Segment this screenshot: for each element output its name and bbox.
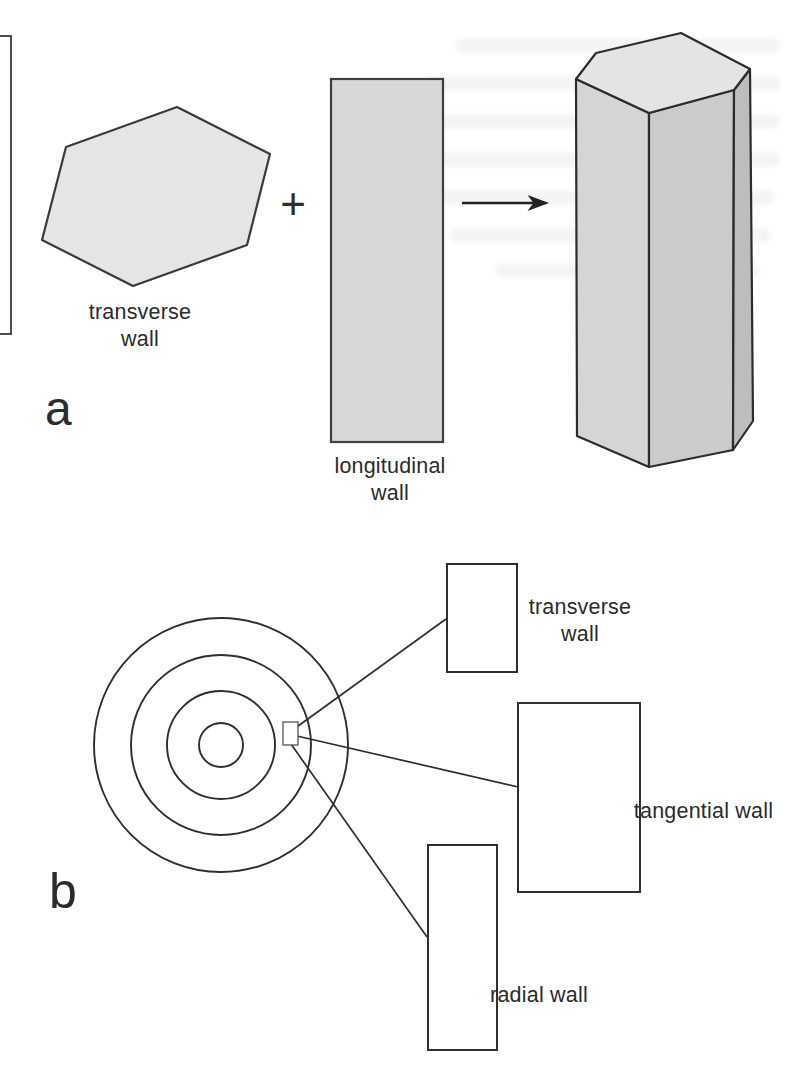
tangential-wall-label: tangential wall <box>633 798 774 825</box>
panel-b-label: b <box>49 866 77 916</box>
growth-rings <box>94 618 348 872</box>
panel-a-label: a <box>45 385 72 433</box>
hexagonal-prism <box>576 33 753 467</box>
transverse-wall-label-a: transverse wall <box>70 299 210 353</box>
prism-left-face <box>576 79 649 467</box>
callout-line-radial <box>291 744 427 937</box>
transverse-wall-label-b: transverse wall <box>510 594 650 648</box>
longitudinal-wall-label: longitudinal wall <box>320 453 460 507</box>
panel-a-shapes <box>0 33 753 467</box>
sample-cell-marker <box>283 722 298 745</box>
tangential-wall-plane <box>518 703 640 892</box>
prism-front-face <box>649 90 734 467</box>
transverse-wall-plane <box>447 564 517 672</box>
radial-wall-label: radial wall <box>469 982 609 1009</box>
wood-cell-wall-diagram <box>0 0 794 1085</box>
figure-page: transverse wall + longitudinal wall a tr… <box>0 0 794 1085</box>
growth-ring-center <box>199 723 243 767</box>
radial-wall-plane <box>428 845 497 1050</box>
prism-side-face <box>733 69 753 450</box>
transverse-wall-hexagon <box>42 107 270 286</box>
arrow-right-icon <box>462 195 549 211</box>
plus-icon: + <box>271 182 315 226</box>
longitudinal-wall-rect <box>331 79 443 442</box>
cropped-figure-border <box>0 36 11 334</box>
